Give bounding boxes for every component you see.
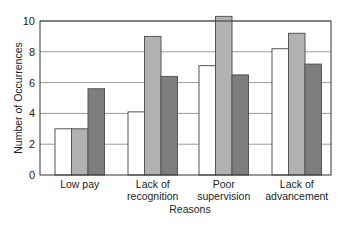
x-category-label: supervision xyxy=(197,190,250,202)
bar xyxy=(232,75,249,175)
y-tick-label: 0 xyxy=(29,169,35,181)
bar xyxy=(161,76,178,175)
bar xyxy=(199,66,216,175)
y-tick-label: 4 xyxy=(29,107,35,119)
x-axis-title: Reasons xyxy=(169,203,210,215)
bar xyxy=(88,89,105,175)
bar xyxy=(272,49,289,175)
y-tick-label: 10 xyxy=(23,15,35,27)
y-tick-label: 8 xyxy=(29,46,35,58)
y-tick-label: 2 xyxy=(29,138,35,150)
x-category-label: Lack of xyxy=(280,178,314,190)
bar xyxy=(216,16,233,175)
bar-chart: 0246810 Low payLack ofrecognitionPoorsup… xyxy=(0,0,345,227)
bar xyxy=(72,129,89,175)
x-category-label: recognition xyxy=(127,190,179,202)
y-axis-title: Number of Occurrences xyxy=(12,42,24,153)
x-category-label: Poor xyxy=(213,178,236,190)
bar xyxy=(145,36,162,175)
x-category-label: Low pay xyxy=(60,178,100,190)
bar xyxy=(128,112,145,175)
y-tick-label: 6 xyxy=(29,77,35,89)
bar xyxy=(305,64,322,175)
x-category-label: Lack of xyxy=(136,178,170,190)
x-category-label: advancement xyxy=(265,190,328,202)
y-tick-labels: 0246810 xyxy=(23,15,35,181)
x-category-labels: Low payLack ofrecognitionPoorsupervision… xyxy=(60,178,328,202)
bar xyxy=(289,33,306,175)
bars xyxy=(55,16,322,175)
bar xyxy=(55,129,72,175)
